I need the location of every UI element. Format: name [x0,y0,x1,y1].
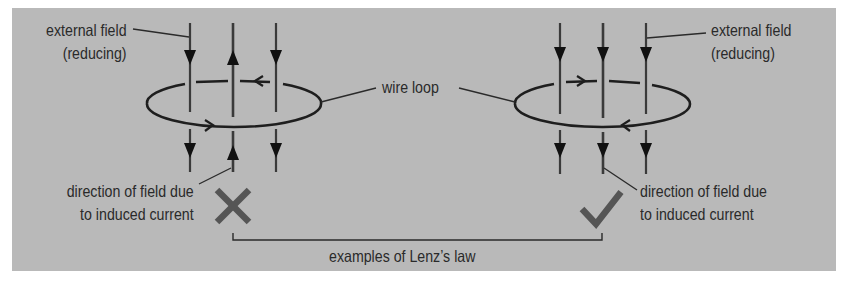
left-induced-field-line [227,23,239,172]
left-induced-field-label: direction of field due to induced curren… [67,180,194,226]
cross-icon [217,190,249,222]
left-external-field-label: external field (reducing) [47,19,127,65]
right-external-field-line-1 [554,23,566,174]
left-induced-field-leader [199,168,231,184]
label-line: direction of field due [67,180,194,203]
label-line: external field [47,19,127,42]
label-line: to induced current [67,203,194,226]
right-induced-field-line [597,23,609,174]
bracket-label: examples of Lenz’s law [329,245,475,268]
wire-loop-leader-right [459,88,515,102]
bracket-label-text: examples of Lenz’s law [329,247,475,265]
label-line: direction of field due [640,180,767,203]
right-external-field-leader [647,33,706,38]
wire-loop-text: wire loop [382,78,439,96]
left-external-field-line-3 [270,23,282,172]
check-icon [582,192,621,224]
wire-loop-leader-left [321,88,376,102]
left-external-field-leader [133,29,189,37]
right-induced-field-label: direction of field due to induced curren… [640,180,767,226]
label-line: (reducing) [47,42,127,65]
label-line: (reducing) [711,42,791,65]
examples-bracket [233,233,602,240]
right-external-field-label: external field (reducing) [711,19,791,65]
right-induced-field-leader [604,168,637,190]
left-external-field-line-1 [184,23,196,172]
wire-loop-label: wire loop [382,76,439,99]
right-external-field-line-3 [640,23,652,174]
label-line: to induced current [640,203,767,226]
label-line: external field [711,19,791,42]
